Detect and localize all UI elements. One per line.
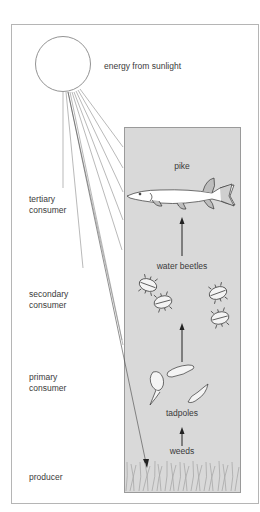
weeds-label: weeds [170,446,195,457]
secondary-level-label: secondary consumer [29,289,68,310]
secondary-line1: secondary [29,289,68,300]
primary-line2: consumer [29,383,66,394]
pike-label: pike [174,161,190,172]
tertiary-line2: consumer [29,205,66,216]
primary-level-label: primary consumer [29,372,66,393]
tertiary-level-label: tertiary consumer [29,194,66,215]
tertiary-line1: tertiary [29,194,66,205]
primary-line1: primary [29,372,66,383]
producer-level-label: producer [29,472,63,483]
tadpoles-label: tadpoles [166,408,198,419]
water-beetles-label: water beetles [157,261,208,272]
secondary-line2: consumer [29,300,68,311]
energy-from-sunlight-label: energy from sunlight [104,61,181,72]
food-chain-diagram [0,0,260,512]
sun-icon [36,37,91,92]
